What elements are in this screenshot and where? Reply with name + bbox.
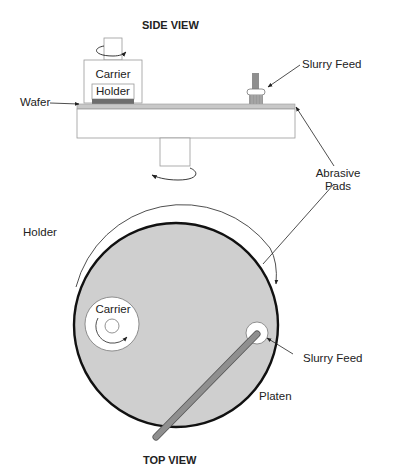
side-view-title: SIDE VIEW	[142, 19, 199, 31]
top-view: Holder Carrier Slurry Feed Platen TOP VI…	[23, 205, 362, 466]
top-carrier-label: Carrier	[95, 303, 130, 315]
abrasive-pad-layer	[77, 104, 295, 109]
side-view: SIDE VIEW Carrier Holder Wafer Slurry	[20, 19, 361, 180]
platen-label: Platen	[259, 390, 292, 402]
platen-shaft	[160, 138, 190, 166]
wafer-label: Wafer	[20, 96, 50, 108]
top-holder-label: Holder	[23, 226, 57, 238]
abrasive-pads-pointer-top	[263, 184, 334, 264]
abrasive-pads-label-line1: Abrasive	[316, 167, 361, 179]
slurry-nozzle-tube	[252, 73, 259, 89]
carrier-spindle	[104, 38, 122, 60]
holder-label: Holder	[96, 85, 130, 97]
top-holder-disc	[105, 319, 119, 333]
wafer	[92, 99, 134, 104]
carrier-label: Carrier	[95, 68, 130, 80]
top-slurry-feed-label: Slurry Feed	[303, 352, 362, 364]
side-slurry-feed-label: Slurry Feed	[302, 58, 361, 70]
wafer-pointer	[50, 103, 79, 104]
abrasive-pads-pointer-side	[296, 107, 334, 166]
top-view-title: TOP VIEW	[143, 454, 197, 466]
platen-rotation-arrow-icon	[152, 168, 196, 180]
cmp-diagram: SIDE VIEW Carrier Holder Wafer Slurry	[0, 0, 397, 476]
side-slurry-feed-pointer	[268, 65, 300, 87]
platen-block	[77, 109, 295, 138]
slurry-nozzle-collar	[247, 89, 265, 95]
